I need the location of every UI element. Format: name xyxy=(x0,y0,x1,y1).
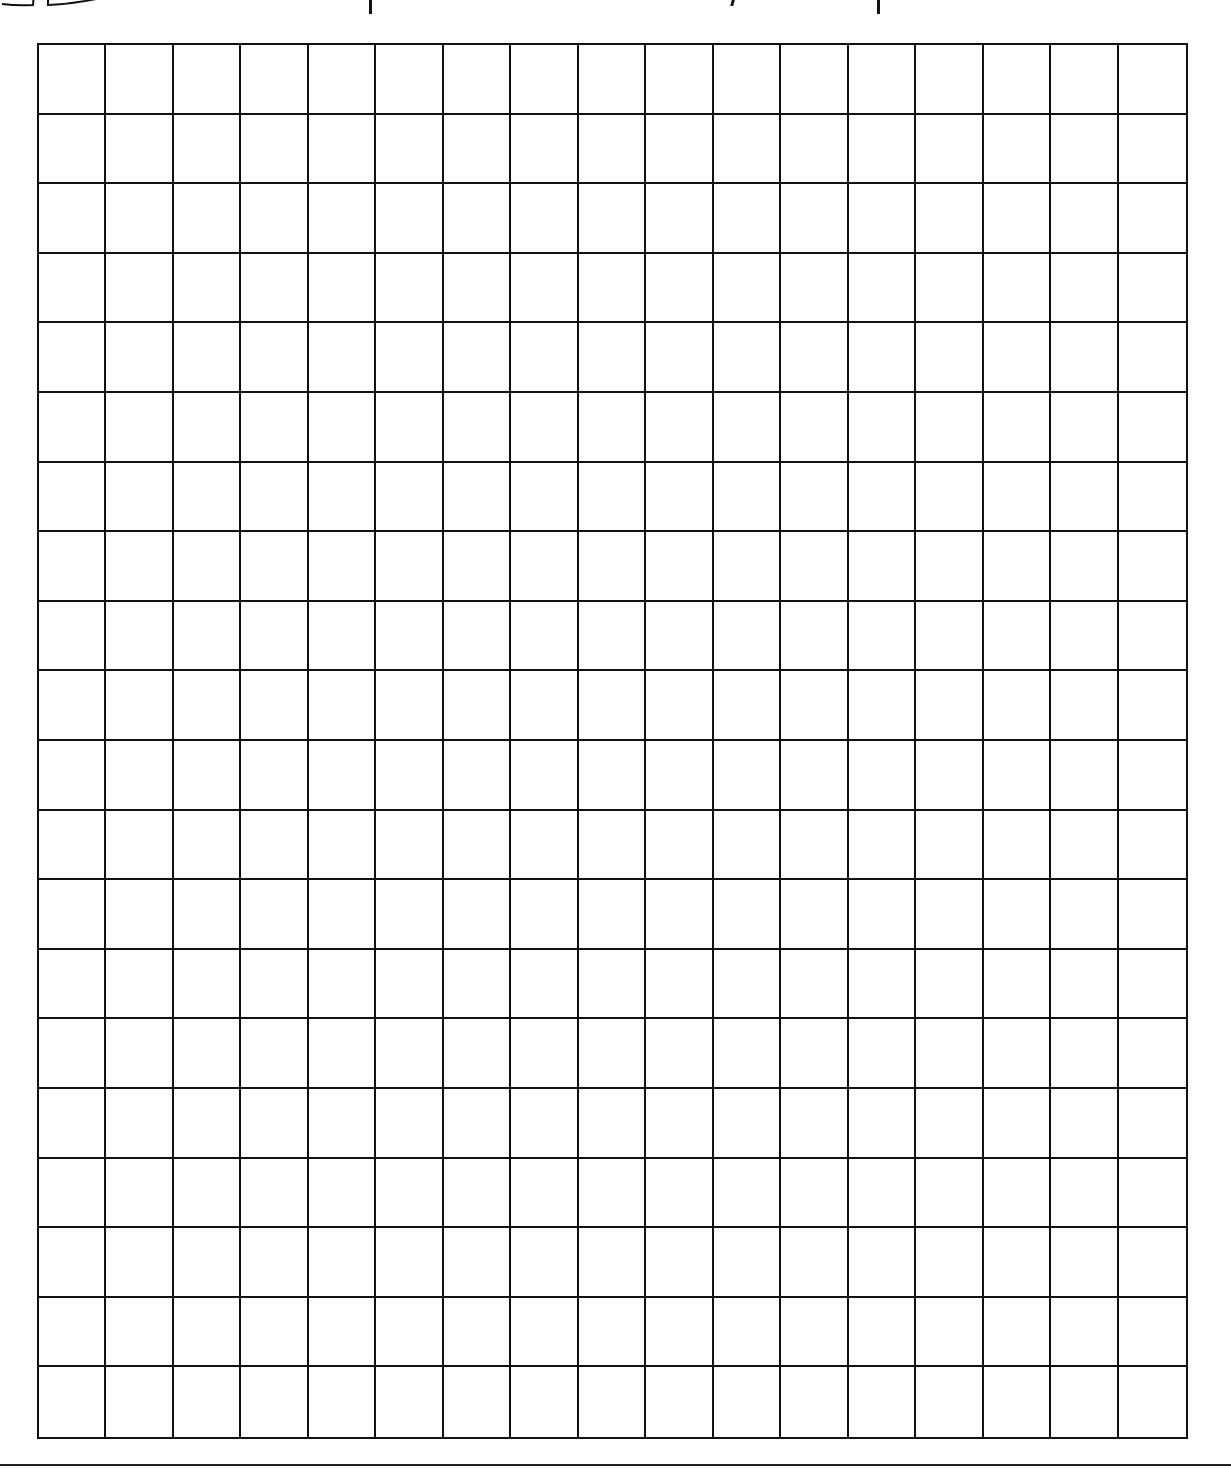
grid-cell xyxy=(781,323,848,393)
grid-cell xyxy=(1119,45,1186,115)
grid-cell xyxy=(579,532,646,602)
grid-cell xyxy=(646,811,713,881)
grid-cell xyxy=(646,393,713,463)
grid-cell xyxy=(106,463,173,533)
grid-cell xyxy=(444,1367,511,1437)
grid-cell xyxy=(376,115,443,185)
grid-cell xyxy=(579,463,646,533)
grid-cell xyxy=(241,115,308,185)
grid-cell xyxy=(781,463,848,533)
grid-cell xyxy=(309,463,376,533)
grid-cell xyxy=(174,671,241,741)
grid-cell xyxy=(444,323,511,393)
grid-cell xyxy=(39,45,106,115)
grid-cell xyxy=(376,463,443,533)
grid-cell xyxy=(781,950,848,1020)
grid-cell xyxy=(511,393,578,463)
grid-cell xyxy=(309,741,376,811)
grid-cell xyxy=(174,1367,241,1437)
grid-cell xyxy=(106,45,173,115)
grid-cell xyxy=(376,671,443,741)
grid-cell xyxy=(1051,254,1118,324)
grid-cell xyxy=(444,1019,511,1089)
grid-cell xyxy=(1051,463,1118,533)
grid-cell xyxy=(579,880,646,950)
grid-cell xyxy=(984,45,1051,115)
grid-cell xyxy=(376,811,443,881)
grid-cell xyxy=(1051,184,1118,254)
grid-cell xyxy=(916,323,983,393)
grid-cell xyxy=(1119,671,1186,741)
grid-cell xyxy=(376,184,443,254)
grid-cell xyxy=(444,45,511,115)
grid-cell xyxy=(444,184,511,254)
grid-cell xyxy=(106,880,173,950)
grid-cell xyxy=(1051,1228,1118,1298)
grid-cell xyxy=(646,532,713,602)
grid-cell xyxy=(646,323,713,393)
grid-cell xyxy=(849,811,916,881)
grid-cell xyxy=(579,393,646,463)
grid-cell xyxy=(241,463,308,533)
grid-cell xyxy=(376,1019,443,1089)
grid-cell xyxy=(646,671,713,741)
grid-cell xyxy=(511,184,578,254)
grid-cell xyxy=(39,532,106,602)
grid-cell xyxy=(916,671,983,741)
grid-cell xyxy=(579,1228,646,1298)
grid-cell xyxy=(646,463,713,533)
grid-cell xyxy=(646,115,713,185)
grid-cell xyxy=(511,671,578,741)
grid-cell xyxy=(511,811,578,881)
grid-cell xyxy=(511,880,578,950)
grid-cell xyxy=(376,1228,443,1298)
grid-cell xyxy=(174,254,241,324)
grid-cell xyxy=(916,811,983,881)
grid-cell xyxy=(849,45,916,115)
grid-cell xyxy=(781,1298,848,1368)
grid-cell xyxy=(444,741,511,811)
grid-cell xyxy=(714,532,781,602)
bottom-divider xyxy=(0,1464,1231,1466)
grid-cell xyxy=(781,602,848,672)
grid-cell xyxy=(646,1089,713,1159)
grid-cell xyxy=(106,532,173,602)
grid-cell xyxy=(646,741,713,811)
grid-cell xyxy=(309,671,376,741)
grid-cell xyxy=(714,1298,781,1368)
grid-cell xyxy=(714,880,781,950)
grid-cell xyxy=(849,1159,916,1229)
grid-cell xyxy=(1051,1089,1118,1159)
grid-cell xyxy=(781,532,848,602)
grid-cell xyxy=(781,1367,848,1437)
grid-cell xyxy=(1119,880,1186,950)
grid-cell xyxy=(39,393,106,463)
grid-cell xyxy=(849,393,916,463)
grid-cell xyxy=(309,1367,376,1437)
grid-cell xyxy=(106,115,173,185)
grid-cell xyxy=(646,254,713,324)
grid-cell xyxy=(309,1089,376,1159)
grid-cell xyxy=(511,1089,578,1159)
grid-cell xyxy=(714,463,781,533)
grid-cell xyxy=(916,1367,983,1437)
grid-cell xyxy=(984,1159,1051,1229)
grid-cell xyxy=(714,1228,781,1298)
grid-cell xyxy=(1051,532,1118,602)
grid-cell xyxy=(376,254,443,324)
grid-cell xyxy=(849,741,916,811)
grid-cell xyxy=(579,671,646,741)
grid-cell xyxy=(511,950,578,1020)
grid-cell xyxy=(39,811,106,881)
grid-cell xyxy=(781,115,848,185)
grid-cell xyxy=(714,1089,781,1159)
grid-cell xyxy=(1051,1159,1118,1229)
grid-cell xyxy=(579,811,646,881)
grid-cell xyxy=(309,950,376,1020)
grid-cell xyxy=(1119,950,1186,1020)
grid-cell xyxy=(174,950,241,1020)
grid-cell xyxy=(309,811,376,881)
grid-cell xyxy=(241,880,308,950)
grid-cell xyxy=(174,880,241,950)
grid-cell xyxy=(444,532,511,602)
